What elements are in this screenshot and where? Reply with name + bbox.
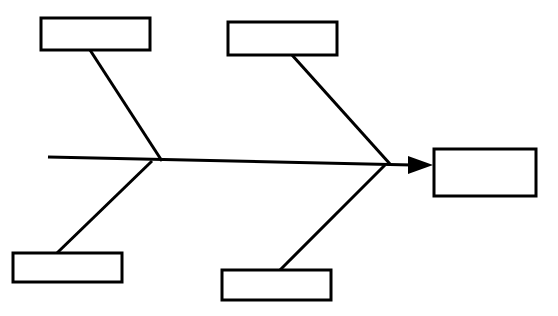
effect-box[interactable]: [434, 149, 536, 196]
rib-bottom-left: [57, 161, 152, 253]
fishbone-canvas: [0, 0, 558, 316]
category-box-top-right[interactable]: [228, 22, 337, 55]
rib-top-right: [292, 55, 390, 164]
category-box-bottom-right[interactable]: [222, 270, 331, 300]
rib-top-left: [90, 50, 162, 161]
fishbone-diagram: [0, 0, 558, 316]
category-box-bottom-left[interactable]: [13, 253, 122, 282]
rib-bottom-right: [280, 165, 385, 270]
spine-line: [48, 157, 412, 165]
category-box-top-left[interactable]: [41, 18, 150, 50]
arrowhead-icon: [408, 156, 433, 174]
